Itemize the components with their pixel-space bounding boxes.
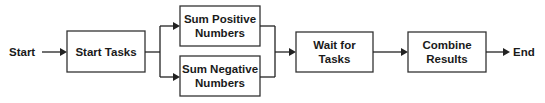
node-combine-line1: Combine [422,39,471,51]
node-sum-negative-line2: Numbers [195,77,245,89]
edge-combine-to-end [486,48,510,56]
end-label: End [513,46,535,58]
node-sum-positive-numbers: Sum Positive Numbers [180,6,260,46]
flowchart-diagram: Start Start Tasks Sum Positive Numbers S… [0,0,545,103]
start-label: Start [9,46,35,58]
node-wait-line2: Tasks [319,53,351,65]
node-sum-negative-line1: Sum Negative [182,63,258,75]
arrowhead-icon [60,48,67,56]
edge-start-to-start-tasks [42,48,67,56]
edge-join-to-wait-for-tasks [260,26,296,77]
edge-wait-to-combine [373,48,408,56]
node-sum-positive-line2: Numbers [195,27,245,39]
node-wait-line1: Wait for [313,39,356,51]
arrowhead-icon [173,73,180,81]
arrowhead-icon [173,22,180,30]
node-start-tasks-label: Start Tasks [75,46,136,58]
arrowhead-icon [289,48,296,56]
node-combine-results: Combine Results [408,32,486,72]
node-sum-negative-numbers: Sum Negative Numbers [180,56,260,96]
node-combine-line2: Results [426,53,468,65]
arrowhead-icon [401,48,408,56]
node-start-tasks: Start Tasks [67,31,145,72]
node-sum-positive-line1: Sum Positive [184,13,256,25]
arrowhead-icon [503,48,510,56]
node-wait-for-tasks: Wait for Tasks [296,32,373,72]
edge-fork-to-sum-tasks [145,22,180,81]
